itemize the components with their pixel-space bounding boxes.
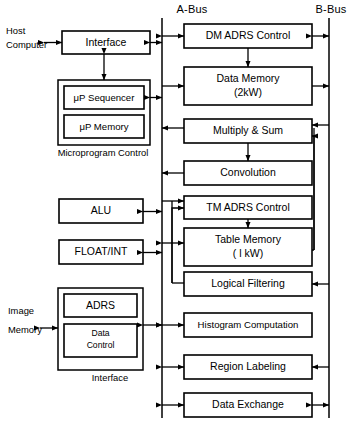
b-bus-label: B-Bus [316,3,347,15]
host-computer-label-line1: Host [6,25,26,36]
image-memory-label-line2: Memory [8,324,42,335]
block-data-control-label-line2: Control [87,340,115,350]
block-region-labeling-label: Region Labeling [210,360,286,372]
block-dm-adrs-control-label: DM ADRS Control [206,29,291,41]
block-convolution-label: Convolution [220,166,276,178]
a-bus-label: A-Bus [177,3,208,15]
block-data-exchange-label: Data Exchange [212,398,284,410]
block-table-memory-label-line2: ( l kW) [233,247,263,259]
block-diagram: A-Bus B-Bus Host Computer Image Memory I… [0,0,351,431]
microprogram-control-caption: Microprogram Control [58,147,149,158]
block-tm-adrs-control-label: TM ADRS Control [206,201,289,213]
block-data-control-label-line1: Data [91,328,109,338]
block-histogram-computation-label: Histogram Computation [198,319,299,330]
wire-logical-filtering-feedback-to-tm-adrs [172,208,184,283]
image-memory-label-line1: Image [8,305,34,316]
block-adrs-label: ADRS [86,299,115,311]
block-interface-label: Interface [86,36,127,48]
block-up-memory-label: μP Memory [79,121,128,132]
block-up-sequencer-label: μP Sequencer [74,92,136,103]
figure-canvas: A-Bus B-Bus Host Computer Image Memory I… [0,0,351,431]
block-alu-label: ALU [91,204,111,216]
interface-caption: Interface [92,372,128,383]
host-computer-label-line2: Computer [6,39,47,50]
block-multiply-sum-label: Multiply & Sum [213,124,283,136]
block-data-memory-label-line2: (2kW) [234,86,262,98]
block-float-int-label: FLOAT/INT [75,245,128,257]
block-data-memory-label-line1: Data Memory [216,72,280,84]
block-logical-filtering-label: Logical Filtering [211,277,285,289]
block-table-memory-label-line1: Table Memory [215,233,282,245]
